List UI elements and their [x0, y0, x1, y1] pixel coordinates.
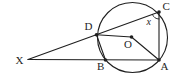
point-label-D: D — [85, 20, 93, 32]
radius-OA — [132, 37, 160, 60]
point-label-B: B — [97, 60, 104, 72]
secant-line-XDC — [28, 12, 159, 60]
chord-DB — [97, 35, 106, 60]
point-label-O: O — [124, 38, 132, 50]
point-label-X: X — [16, 54, 24, 66]
point-dot-C — [157, 10, 161, 14]
circle-geometry-svg: X D B O A C x — [0, 0, 176, 82]
secant-line-XBA — [28, 60, 159, 61]
angle-label-x: x — [146, 16, 152, 27]
point-label-C: C — [163, 0, 170, 12]
geometry-diagram: X D B O A C x — [0, 0, 176, 82]
point-label-A: A — [161, 60, 169, 72]
point-dot-D — [95, 33, 99, 37]
angle-arc-at-C — [152, 14, 159, 19]
